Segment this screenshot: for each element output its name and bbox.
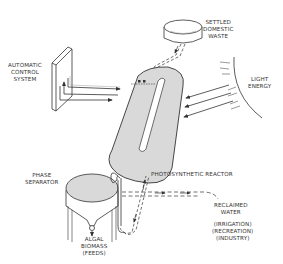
light-rays (184, 85, 233, 117)
light-energy-label: LIGHT ENERGY (248, 76, 271, 90)
reclaimed-water-line-1: RECLAIMED (214, 202, 248, 209)
control-system-line-1: AUTOMATIC (8, 62, 42, 69)
recycle-line (120, 176, 149, 235)
algal-biomass-label: ALGAL BIOMASS (FEEDS) (81, 236, 107, 257)
phase-separator-line-1: PHASE (25, 172, 59, 179)
reactor-label: PHOTOSYNTHETIC REACTOR (151, 171, 233, 178)
phase-separator-line-2: SEPARATOR (25, 179, 59, 186)
water-use-industry: (INDUSTRY) (212, 235, 253, 242)
algal-biomass-line-2: BIOMASS (81, 243, 107, 250)
light-energy-line-1: LIGHT (248, 76, 271, 83)
waste-feed-line (153, 44, 185, 70)
phase-separator (66, 174, 118, 242)
water-uses-label: (IRRIGATION) (RECREATION) (INDUSTRY) (212, 221, 253, 242)
settled-waste-line-3: WASTE (203, 33, 233, 40)
control-system-line-2: CONTROL (8, 69, 42, 76)
algal-biomass-line-3: (FEEDS) (81, 250, 107, 257)
settled-waste-tank (164, 20, 202, 43)
reclaimed-water-line (122, 192, 218, 199)
settled-waste-label: SETTLED DOMESTIC WASTE (203, 19, 233, 40)
reactor-label-text: PHOTOSYNTHETIC REACTOR (151, 171, 233, 178)
control-panel (52, 47, 72, 111)
settled-waste-line-2: DOMESTIC (203, 26, 233, 33)
control-system-label: AUTOMATIC CONTROL SYSTEM (8, 62, 42, 83)
photosynthetic-reactor (109, 67, 183, 183)
algal-biomass-line-1: ALGAL (81, 236, 107, 243)
reclaimed-water-label: RECLAIMED WATER (214, 202, 248, 216)
water-use-irrigation: (IRRIGATION) (212, 221, 253, 228)
light-energy-line-2: ENERGY (248, 83, 271, 90)
control-system-line-3: SYSTEM (8, 76, 42, 83)
reclaimed-water-line-2: WATER (214, 209, 248, 216)
water-use-recreation: (RECREATION) (212, 228, 253, 235)
settled-waste-line-1: SETTLED (203, 19, 233, 26)
phase-separator-label: PHASE SEPARATOR (25, 172, 59, 186)
